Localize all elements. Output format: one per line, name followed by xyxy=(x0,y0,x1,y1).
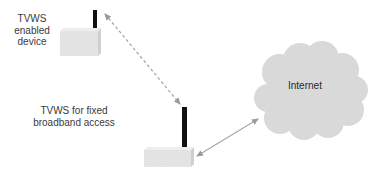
device-box-side xyxy=(98,28,101,56)
label-line: enabled xyxy=(10,25,54,37)
diagram-canvas xyxy=(0,0,381,177)
device-box-icon xyxy=(144,150,191,167)
label-line: broadband access xyxy=(26,117,122,129)
fixed-broadband-label: TVWS for fixed broadband access xyxy=(26,105,122,128)
device-antenna-icon xyxy=(93,10,97,31)
label-line: TVWS for fixed xyxy=(26,105,122,117)
dashed-link-arrow xyxy=(105,14,180,104)
device-box-top xyxy=(144,147,194,150)
label-line: device xyxy=(10,36,54,48)
internet-label: Internet xyxy=(288,80,322,91)
device-box-icon xyxy=(60,31,98,56)
device-box-top xyxy=(60,28,101,31)
label-line: TVWS xyxy=(10,13,54,25)
device-antenna-icon xyxy=(182,107,187,148)
tvws-fixed-broadband-device xyxy=(144,107,194,167)
enabled-device-label: TVWS enabled device xyxy=(10,13,54,48)
tvws-enabled-device xyxy=(60,10,101,56)
solid-link-arrow xyxy=(197,119,258,156)
device-box-side xyxy=(191,147,194,167)
